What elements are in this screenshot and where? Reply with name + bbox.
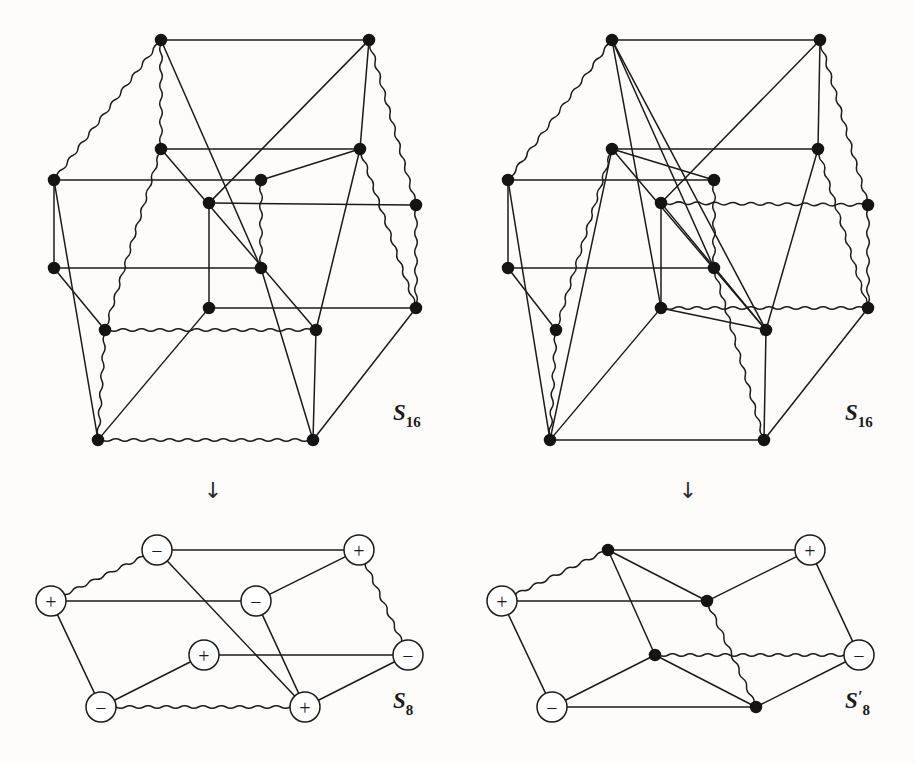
node-solid[interactable] xyxy=(607,35,617,45)
edge-solid xyxy=(360,44,368,144)
node-solid[interactable] xyxy=(503,263,513,273)
edge-solid xyxy=(57,615,94,694)
edge-solid xyxy=(613,44,660,303)
node-sign-label: + xyxy=(353,540,364,562)
node-solid[interactable] xyxy=(709,263,719,273)
edge-solid xyxy=(317,153,359,325)
node-solid[interactable] xyxy=(100,325,110,335)
down-arrow-icon: ↓ xyxy=(204,478,222,503)
node-solid[interactable] xyxy=(503,175,513,185)
node-solid[interactable] xyxy=(863,303,873,313)
node-solid[interactable] xyxy=(702,596,712,606)
edge-wavy xyxy=(102,439,308,442)
node-sign-label: + xyxy=(804,540,815,562)
node-solid[interactable] xyxy=(256,175,266,185)
edge-solid xyxy=(614,44,764,326)
edge-wavy xyxy=(709,605,754,703)
panel-label-top-left: S16 xyxy=(393,400,421,430)
node-sign-label: − xyxy=(546,697,557,719)
figure-canvas: S16S16−++−+−−+S8++−−S′8↓↓ xyxy=(0,0,915,763)
signed-graph-figure: S16S16−++−+−−+S8++−−S′8↓↓ xyxy=(0,0,915,763)
node-solid[interactable] xyxy=(156,35,166,45)
node-solid[interactable] xyxy=(308,435,318,445)
edge-solid xyxy=(164,152,313,326)
edge-wavy xyxy=(57,44,159,177)
edge-solid xyxy=(313,334,316,435)
node-solid[interactable] xyxy=(551,325,561,335)
node-solid[interactable] xyxy=(603,545,613,555)
edge-solid xyxy=(318,662,394,700)
node-solid[interactable] xyxy=(49,263,59,273)
node-solid[interactable] xyxy=(311,325,321,335)
node-solid[interactable] xyxy=(411,303,421,313)
node-solid[interactable] xyxy=(709,175,719,185)
edge-solid xyxy=(509,184,550,435)
node-sign-label: − xyxy=(853,645,864,667)
node-solid[interactable] xyxy=(863,200,873,210)
nodes-layer xyxy=(49,35,421,445)
node-sign-label: − xyxy=(250,591,261,613)
node-sign-label: + xyxy=(496,591,507,613)
node-solid[interactable] xyxy=(545,435,555,445)
panel-top-right: S16 xyxy=(503,35,873,445)
node-solid[interactable] xyxy=(411,200,421,210)
edge-solid xyxy=(764,334,766,435)
edge-solid xyxy=(57,271,102,326)
node-solid[interactable] xyxy=(607,144,617,154)
nodes-layer: −++−+−−+ xyxy=(36,535,423,722)
edge-solid xyxy=(511,271,554,326)
node-solid[interactable] xyxy=(656,198,666,208)
edge-wavy xyxy=(109,329,311,332)
node-sign-label: − xyxy=(402,645,413,667)
node-solid[interactable] xyxy=(156,144,166,154)
node-solid[interactable] xyxy=(355,144,365,154)
label-subscript: 16 xyxy=(858,414,874,430)
node-solid[interactable] xyxy=(759,435,769,445)
edge-solid xyxy=(55,184,98,435)
panel-bottom-left: −++−+−−+S8 xyxy=(36,535,423,722)
edge-solid xyxy=(816,564,852,642)
edges-layer xyxy=(54,40,417,441)
edge-solid xyxy=(767,153,817,326)
edges-layer xyxy=(508,550,852,707)
edge-solid xyxy=(565,657,651,700)
node-solid[interactable] xyxy=(204,198,214,208)
node-solid[interactable] xyxy=(751,702,761,712)
node-sign-label: + xyxy=(299,697,310,719)
edge-wavy xyxy=(821,44,867,201)
node-solid[interactable] xyxy=(256,263,266,273)
node-solid[interactable] xyxy=(364,35,374,45)
edge-wavy xyxy=(260,184,263,263)
label-subscript: 8 xyxy=(863,702,871,718)
down-arrow-icon: ↓ xyxy=(679,478,697,503)
edge-solid xyxy=(212,43,366,200)
edge-solid xyxy=(167,561,294,696)
node-sign-label: + xyxy=(45,591,56,613)
node-solid[interactable] xyxy=(656,303,666,313)
edge-solid xyxy=(265,150,356,178)
edge-wavy xyxy=(665,307,863,310)
node-solid[interactable] xyxy=(93,435,103,445)
node-solid[interactable] xyxy=(204,303,214,313)
edges-layer xyxy=(57,550,401,708)
edge-solid xyxy=(551,153,611,435)
label-subscript: 16 xyxy=(406,414,422,430)
edge-solid xyxy=(269,557,345,595)
edge-wavy xyxy=(116,706,290,709)
edge-solid xyxy=(610,554,653,651)
edge-wavy xyxy=(97,334,105,435)
node-sign-label: − xyxy=(151,540,162,562)
panel-label-bottom-left: S8 xyxy=(393,688,413,718)
node-solid[interactable] xyxy=(650,650,660,660)
node-solid[interactable] xyxy=(813,144,823,154)
node-solid[interactable] xyxy=(49,175,59,185)
edge-solid xyxy=(664,43,817,200)
edge-solid xyxy=(553,311,658,436)
edge-wavy xyxy=(361,153,414,304)
edge-solid xyxy=(711,557,797,599)
edge-wavy xyxy=(511,44,610,177)
panel-bottom-right: ++−−S′8 xyxy=(487,535,874,722)
node-solid[interactable] xyxy=(761,325,771,335)
edge-solid xyxy=(213,203,411,205)
node-solid[interactable] xyxy=(815,35,825,45)
